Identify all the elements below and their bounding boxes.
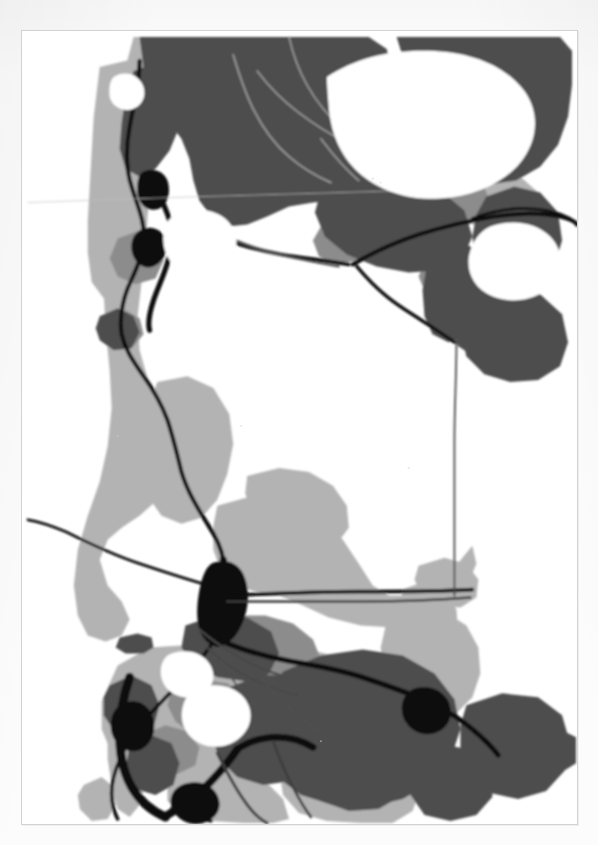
scan-page	[0, 0, 598, 845]
map-figure	[22, 31, 577, 824]
map-frame	[21, 30, 578, 825]
header-caption	[0, 0, 598, 13]
